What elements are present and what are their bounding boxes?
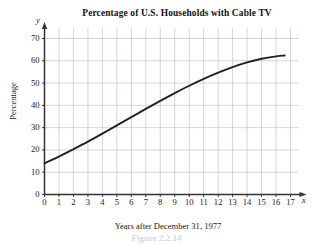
cable-tv-percentage-curve (45, 55, 285, 163)
y-axis-arrow-icon (42, 22, 47, 29)
x-axis-arrow-icon (300, 192, 307, 197)
data-curve-group (45, 55, 285, 163)
plot-area (0, 0, 313, 245)
gridlines (45, 28, 299, 195)
figure-container: Percentage of U.S. Households with Cable… (0, 0, 313, 245)
axis-lines (42, 22, 307, 197)
figure-caption: Figure 2.2.14 (0, 233, 313, 243)
